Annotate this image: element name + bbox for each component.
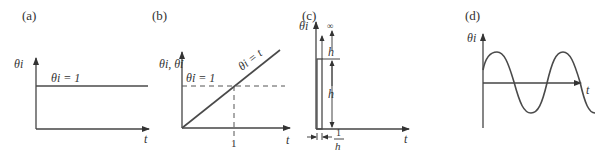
panel-a-label: (a) [22,8,36,23]
panel-c-infinity: ∞ [327,21,333,31]
panel-d-sinusoidal-input: (d) θi t [465,8,595,128]
panel-a-x-label: t [144,132,148,146]
panel-b-label: (b) [152,8,167,23]
panel-a-y-label: θi [14,57,23,71]
panel-c-width-num: 1 [336,127,341,138]
panel-b-x-tick: 1 [231,137,237,149]
panel-c-height-mid: h [328,87,334,101]
panel-b-ramp-input: (b) θi, θ̇i θ̇i = 1 θi = t 1 t [152,8,290,149]
panel-c-y-label: θi [299,19,308,33]
panel-c-width-den: h [335,140,341,152]
panel-b-line-annotation: θi = t [235,46,265,74]
figure-canvas: (a) θi θi = 1 t (b) θi, θ̇i θ̇i = 1 θi =… [0,0,599,153]
panel-d-x-label: t [586,83,590,97]
panel-c-x-label: t [404,132,408,146]
panel-b-ramp-line [182,50,280,128]
panel-b-x-label: t [286,133,290,147]
panel-c-impulse-input: (c) ∞ h h θi 1 h t [299,8,409,152]
panel-b-y-label: θi, θ̇i [159,57,184,71]
panel-d-y-label: θi [467,31,476,45]
panel-a-annotation: θi = 1 [51,71,80,85]
panel-c-height-top: h [328,45,334,59]
panel-a-step-input: (a) θi θi = 1 t [14,8,149,146]
panel-d-label: (d) [465,8,480,23]
panel-c-impulse-rect [317,59,322,129]
panel-b-rate-annotation: θ̇i = 1 [186,71,215,85]
